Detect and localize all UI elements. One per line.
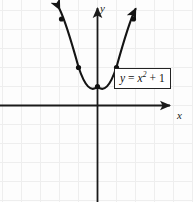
curve-point (76, 65, 81, 70)
grid-lines (0, 0, 193, 202)
equation-constant: 1 (159, 72, 165, 84)
y-axis-label: y (100, 3, 105, 14)
equation-plus: + (149, 72, 156, 84)
x-axis-label: x (177, 110, 182, 121)
equation-lhs: y (120, 72, 125, 84)
equation-exponent: 2 (143, 70, 147, 79)
equation-label: y=x2+1 (114, 68, 171, 89)
graph-figure: y x y=x2+1 (0, 0, 193, 202)
curve-point (131, 16, 136, 21)
curve-point (59, 16, 64, 21)
coordinate-plane (0, 0, 193, 202)
curve-point (95, 84, 100, 89)
equation-equals: = (128, 72, 135, 84)
